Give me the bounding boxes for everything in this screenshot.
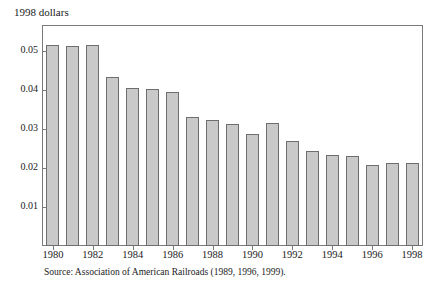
x-tick-label: 1992 <box>282 249 303 261</box>
bar <box>326 155 339 247</box>
source-note: Source: Association of American Railroad… <box>44 266 286 278</box>
x-tick-label: 1988 <box>202 249 223 261</box>
bar <box>266 123 279 246</box>
y-tick-label: 0.03 <box>4 123 38 133</box>
bar <box>186 117 199 246</box>
y-tick-mark <box>42 207 47 208</box>
bar <box>166 92 179 246</box>
y-tick-label: 0.05 <box>4 45 38 55</box>
x-tick-label: 1996 <box>362 249 383 261</box>
bar <box>226 124 239 246</box>
y-axis-tick-labels: 0.010.020.030.040.05 <box>0 25 38 246</box>
y-tick-mark <box>42 129 47 130</box>
bar <box>246 134 259 246</box>
bar <box>206 120 219 246</box>
x-tick-mark <box>292 246 293 250</box>
x-tick-mark <box>213 246 214 250</box>
x-tick-mark <box>53 246 54 250</box>
bar <box>146 89 159 246</box>
bar <box>406 163 419 246</box>
x-tick-mark <box>93 246 94 250</box>
x-tick-mark <box>332 246 333 250</box>
figure-container: 1998 dollars 0.010.020.030.040.05 198019… <box>0 0 447 288</box>
x-tick-mark <box>252 246 253 250</box>
x-tick-mark <box>412 246 413 250</box>
bar-series <box>43 26 422 246</box>
x-tick-label: 1984 <box>122 249 143 261</box>
x-axis-tick-labels: 1980198219841986198819901992199419961998 <box>43 249 422 265</box>
y-tick-mark <box>42 51 47 52</box>
bar <box>366 165 379 246</box>
y-tick-label: 0.02 <box>4 162 38 172</box>
x-tick-label: 1998 <box>402 249 423 261</box>
bar <box>126 88 139 246</box>
x-tick-label: 1994 <box>322 249 343 261</box>
bar <box>286 141 299 246</box>
y-tick-label: 0.04 <box>4 84 38 94</box>
y-axis-title: 1998 dollars <box>14 6 69 19</box>
bar <box>346 156 359 246</box>
y-tick-mark <box>42 168 47 169</box>
bar <box>86 45 99 246</box>
x-tick-label: 1990 <box>242 249 263 261</box>
x-tick-mark <box>372 246 373 250</box>
y-tick-mark <box>42 90 47 91</box>
x-tick-mark <box>173 246 174 250</box>
x-tick-label: 1982 <box>82 249 103 261</box>
bar <box>46 45 59 246</box>
x-tick-label: 1986 <box>162 249 183 261</box>
bar <box>386 163 399 246</box>
y-tick-label: 0.01 <box>4 201 38 211</box>
bar <box>306 151 319 246</box>
x-tick-mark <box>133 246 134 250</box>
bar <box>66 46 79 246</box>
plot-area <box>43 26 422 246</box>
x-tick-label: 1980 <box>42 249 63 261</box>
bar <box>106 77 119 246</box>
